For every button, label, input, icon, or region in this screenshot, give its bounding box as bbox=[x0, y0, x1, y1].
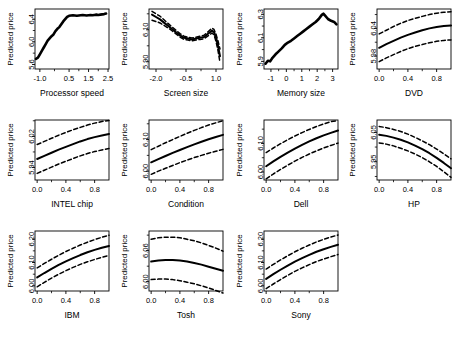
series-fit bbox=[379, 26, 451, 48]
panel-tosh: 0.00.40.86.006.06Predicted priceTosh bbox=[116, 222, 229, 329]
series-fit bbox=[37, 134, 109, 159]
series-lower bbox=[152, 20, 220, 62]
x-tick-label: 0.0 bbox=[146, 185, 156, 194]
y-tick-label: 6.10 bbox=[256, 136, 265, 151]
x-tick-label: -2.0 bbox=[150, 74, 163, 83]
series-upper bbox=[151, 121, 223, 150]
x-tick-label: 0.0 bbox=[146, 296, 156, 305]
x-tick-label: 3 bbox=[331, 74, 335, 83]
x-axis-title: HP bbox=[408, 199, 420, 209]
x-tick-label: 0.8 bbox=[89, 296, 99, 305]
x-tick-label: 0.4 bbox=[61, 185, 71, 194]
x-axis-title: DVD bbox=[405, 88, 423, 98]
x-tick-label: 0.0 bbox=[374, 74, 384, 83]
x-tick-label: 0.8 bbox=[318, 185, 328, 194]
x-axis-title: Condition bbox=[168, 199, 204, 209]
y-tick-label: 6.1 bbox=[256, 33, 265, 43]
panel-dvd: 0.00.40.85.986.04Predicted priceDVD bbox=[344, 0, 455, 107]
series-upper bbox=[266, 121, 338, 153]
y-tick-label: 6.10 bbox=[141, 22, 150, 37]
y-tick-label: 6.05 bbox=[369, 125, 378, 140]
x-axis-title: Sony bbox=[291, 310, 311, 320]
series-lower bbox=[266, 143, 338, 179]
plot-frame bbox=[377, 9, 451, 69]
series-upper bbox=[37, 120, 109, 144]
x-tick-label: 0.4 bbox=[290, 296, 300, 305]
y-tick-label: 6.00 bbox=[141, 164, 150, 179]
x-axis-title: IBM bbox=[64, 310, 79, 320]
panel-grid: -1.00.51.52.55.66.06.4Predicted pricePro… bbox=[0, 0, 455, 342]
series-fit bbox=[151, 135, 223, 162]
series-upper bbox=[37, 235, 109, 268]
x-tick-label: 0.8 bbox=[318, 296, 328, 305]
x-tick-label: 0.4 bbox=[403, 185, 413, 194]
plot-frame bbox=[264, 120, 338, 180]
panel-dell: 0.00.40.86.006.10Predicted priceDell bbox=[231, 111, 344, 218]
series-fit bbox=[266, 14, 337, 64]
series-upper bbox=[379, 12, 451, 34]
y-tick-label: 6.20 bbox=[256, 232, 265, 247]
series-fit bbox=[266, 131, 338, 167]
y-tick-label: 5.94 bbox=[27, 160, 36, 175]
x-axis-title: Memory size bbox=[277, 88, 325, 98]
x-tick-label: 0.5 bbox=[64, 74, 74, 83]
x-tick-label: 0.8 bbox=[203, 296, 213, 305]
x-tick-label: 1.5 bbox=[83, 74, 93, 83]
y-tick-label: 6.10 bbox=[256, 255, 265, 270]
x-axis-title: Tosh bbox=[177, 310, 195, 320]
x-tick-label: 0.8 bbox=[203, 185, 213, 194]
panel-screen-size: -2.0-0.51.05.906.10Predicted priceScreen… bbox=[116, 0, 229, 107]
y-tick-label: 5.98 bbox=[369, 49, 378, 64]
y-tick-label: 6.06 bbox=[141, 243, 150, 258]
x-tick-label: 0.0 bbox=[32, 296, 42, 305]
plot-frame bbox=[264, 231, 338, 291]
x-axis-title: Processor speed bbox=[40, 88, 104, 98]
panel-condition: 0.00.40.86.006.10Predicted priceConditio… bbox=[116, 111, 229, 218]
series-lower bbox=[37, 148, 109, 173]
panel-intel-chip: 0.00.40.85.946.02Predicted priceINTEL ch… bbox=[2, 111, 115, 218]
x-tick-label: 2.5 bbox=[103, 74, 113, 83]
series-upper bbox=[266, 235, 338, 269]
panel-ibm: 0.00.40.86.006.106.20Predicted priceIBM bbox=[2, 222, 115, 329]
x-tick-label: 0.0 bbox=[261, 296, 271, 305]
x-tick-label: -0.5 bbox=[180, 74, 193, 83]
x-tick-label: 0.8 bbox=[431, 185, 441, 194]
x-axis-title: INTEL chip bbox=[51, 199, 93, 209]
y-axis-title: Predicted price bbox=[120, 12, 129, 66]
series-upper bbox=[151, 237, 223, 251]
y-tick-label: 6.0 bbox=[27, 37, 36, 47]
series-fit bbox=[152, 15, 220, 57]
x-tick-label: 0.8 bbox=[89, 185, 99, 194]
x-tick-label: 0.0 bbox=[374, 185, 384, 194]
x-tick-label: 2 bbox=[315, 74, 319, 83]
x-tick-label: 0.4 bbox=[61, 296, 71, 305]
x-tick-label: -1 bbox=[268, 74, 275, 83]
y-tick-label: 5.90 bbox=[141, 54, 150, 69]
y-tick-label: 6.20 bbox=[27, 232, 36, 247]
x-tick-label: 0 bbox=[284, 74, 288, 83]
y-tick-label: 5.9 bbox=[256, 56, 265, 66]
y-tick-label: 5.95 bbox=[369, 154, 378, 169]
x-tick-label: 0.0 bbox=[32, 185, 42, 194]
series-fit bbox=[37, 246, 109, 278]
x-axis-title: Dell bbox=[294, 199, 309, 209]
plot-frame bbox=[35, 120, 109, 180]
x-tick-label: 1.0 bbox=[211, 74, 221, 83]
x-tick-label: 0.4 bbox=[290, 185, 300, 194]
plot-frame bbox=[35, 9, 109, 69]
x-tick-label: 1 bbox=[300, 74, 304, 83]
x-tick-label: 0.4 bbox=[403, 74, 413, 83]
y-axis-title: Predicted price bbox=[6, 123, 15, 177]
x-tick-label: -1.0 bbox=[33, 74, 46, 83]
y-axis-title: Predicted price bbox=[348, 123, 357, 177]
y-tick-label: 6.00 bbox=[27, 279, 36, 294]
y-axis-title: Predicted price bbox=[235, 234, 244, 288]
y-axis-title: Predicted price bbox=[348, 12, 357, 66]
panel-memory-size: -101235.96.16.3Predicted priceMemory siz… bbox=[231, 0, 344, 107]
panel-processor-speed: -1.00.51.52.55.66.06.4Predicted pricePro… bbox=[2, 0, 115, 107]
panel-hp: 0.00.40.85.956.05Predicted priceHP bbox=[344, 111, 455, 218]
y-axis-title: Predicted price bbox=[235, 123, 244, 177]
series-fit bbox=[36, 14, 106, 59]
y-tick-label: 6.00 bbox=[141, 274, 150, 289]
y-tick-label: 6.4 bbox=[27, 14, 36, 24]
